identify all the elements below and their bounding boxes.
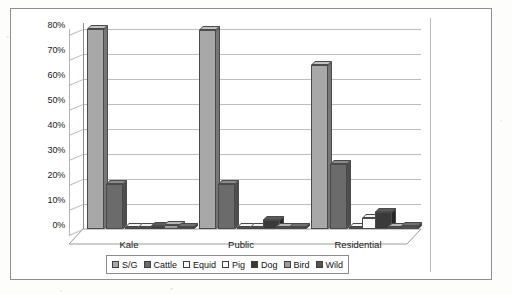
bar-public-cattle [218,184,235,229]
legend-swatch-sg [112,261,119,268]
depth-tick [69,104,83,111]
bar-group-residential [309,23,421,229]
x-tick-label-public: Public [191,239,291,250]
legend-item-pig[interactable]: Pig [222,260,245,270]
bar-public-sg [199,30,216,229]
bar-group-public [197,23,309,229]
y-tick-label: 60% [29,71,65,80]
legend-swatch-pig [222,261,229,268]
depth-tick [69,79,83,86]
y-tick-label: 30% [29,146,65,155]
legend-swatch-wild [316,261,323,268]
x-axis: Kale Public Residential [69,239,421,255]
y-tick-label: 50% [29,96,65,105]
bar-residential-cattle [330,164,347,229]
depth-tick [69,204,83,211]
bar-chart: 80% 70% 60% 50% 40% 30% 20% 10% 0% [21,13,427,277]
legend-label-dog: Dog [261,260,278,270]
chart-legend: S/G Cattle Equid Pig Dog Bird Wild [106,255,349,274]
x-tick-label-kale: Kale [79,239,179,250]
bar-kale-sg [87,29,104,229]
legend-label-pig: Pig [232,260,245,270]
bar-public-wild [289,227,306,229]
legend-swatch-dog [251,261,258,268]
depth-tick [69,29,83,36]
legend-item-dog[interactable]: Dog [251,260,278,270]
legend-item-equid[interactable]: Equid [183,260,216,270]
legend-item-bird[interactable]: Bird [284,260,310,270]
legend-label-bird: Bird [294,260,310,270]
legend-label-sg: S/G [122,260,138,270]
chart-figure-frame: 80% 70% 60% 50% 40% 30% 20% 10% 0% [10,8,492,280]
plot-area [69,23,421,235]
legend-item-cattle[interactable]: Cattle [144,260,178,270]
y-axis: 80% 70% 60% 50% 40% 30% 20% 10% 0% [21,13,65,243]
legend-swatch-cattle [144,261,151,268]
legend-swatch-equid [183,261,190,268]
depth-tick [69,54,83,61]
y-tick-label: 80% [29,21,65,30]
depth-tick [69,154,83,161]
bar-kale-wild [177,227,194,229]
panel-divider [430,18,431,272]
y-axis-line-back [83,23,84,230]
bar-residential-wild [401,226,418,229]
y-tick-label: 10% [29,196,65,205]
legend-label-wild: Wild [326,260,344,270]
y-tick-label: 0% [29,221,65,230]
legend-label-equid: Equid [193,260,216,270]
depth-tick [69,179,83,186]
y-tick-label: 70% [29,46,65,55]
x-tick-label-residential: Residential [303,239,413,250]
y-tick-label: 40% [29,121,65,130]
legend-label-cattle: Cattle [154,260,178,270]
legend-item-sg[interactable]: S/G [112,260,138,270]
bar-residential-sg [311,65,328,229]
legend-swatch-bird [284,261,291,268]
y-axis-line-front [69,29,70,236]
bar-group-kale [85,23,197,229]
depth-tick [69,129,83,136]
bar-kale-cattle [106,184,123,229]
y-tick-label: 20% [29,171,65,180]
legend-item-wild[interactable]: Wild [316,260,344,270]
